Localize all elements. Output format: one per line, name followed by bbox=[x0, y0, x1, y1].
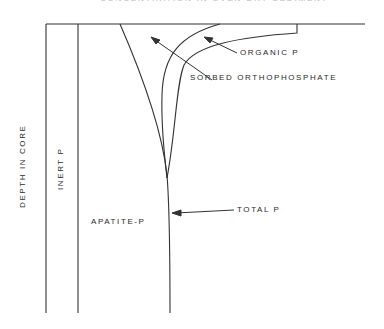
label-total-p: TOTAL P bbox=[237, 205, 281, 214]
label-apatite-p: APATITE-P bbox=[91, 217, 146, 226]
label-sorbed: SORBED ORTHOPHOSPHATE bbox=[190, 73, 337, 82]
label-inert-p: INERT P bbox=[56, 148, 65, 190]
label-organic-p: ORGANIC P bbox=[240, 48, 299, 57]
organic-arrowhead-icon bbox=[204, 37, 213, 43]
apatite-curve bbox=[120, 24, 170, 313]
y-axis-label: DEPTH IN CORE bbox=[18, 125, 27, 208]
total-arrowhead-icon bbox=[172, 210, 181, 216]
